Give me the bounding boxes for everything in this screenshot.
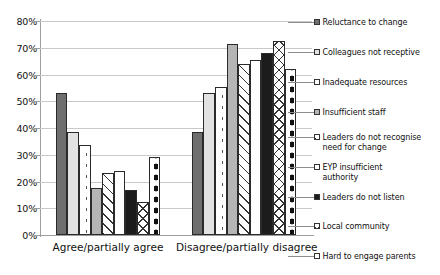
plot-area <box>40 21 312 235</box>
legend-item: EYP insufficient authority <box>314 163 382 182</box>
y-axis-tick-mark <box>35 235 40 236</box>
legend-label: Local community <box>323 222 390 232</box>
legend-item: Inadequate resources <box>314 78 407 88</box>
legend-item: Local community <box>314 222 389 232</box>
legend-swatch <box>314 194 320 200</box>
y-axis-tick-label: 10% <box>16 203 37 214</box>
legend-item: Leaders do not recognise need for change <box>314 133 421 152</box>
legend-item: Insufficient staff <box>314 108 385 118</box>
bar <box>114 171 126 235</box>
bar <box>285 69 297 235</box>
bar <box>273 41 285 235</box>
legend-leader-line <box>288 52 314 53</box>
legend-leader-line <box>288 167 314 168</box>
bar-group <box>56 21 160 235</box>
legend-label: Leaders do not listen <box>323 193 405 203</box>
bar <box>203 93 215 235</box>
bar <box>56 93 68 235</box>
bar <box>261 53 273 235</box>
legend-leader-line <box>288 226 314 227</box>
bar <box>215 87 227 235</box>
y-axis-tick-mark <box>35 128 40 129</box>
bar <box>192 132 204 235</box>
bar <box>227 44 239 235</box>
bar <box>91 188 103 235</box>
x-axis-category-label: Disagree/partially disagree <box>176 241 312 253</box>
bar <box>149 157 161 235</box>
bar <box>137 202 149 235</box>
legend-swatch <box>314 19 320 25</box>
y-axis-tick-labels: 0%10%20%30%40%50%60%70%80% <box>0 0 37 275</box>
legend-leader-line <box>288 256 314 257</box>
bar <box>79 145 91 235</box>
legend-swatch <box>314 49 320 55</box>
legend-item: Reluctance to change <box>314 18 407 28</box>
legend-swatch <box>314 164 320 170</box>
bar <box>67 132 79 235</box>
y-axis-tick-mark <box>35 75 40 76</box>
y-axis-tick-label: 20% <box>16 176 37 187</box>
y-axis-tick-label: 30% <box>16 149 37 160</box>
legend-swatch <box>314 253 320 259</box>
y-axis-tick-mark <box>35 101 40 102</box>
legend-leader-line <box>288 197 314 198</box>
bar <box>125 190 137 235</box>
chart-legend: Reluctance to changeColleagues not recep… <box>314 0 440 275</box>
x-axis-category-label: Agree/partially agree <box>40 241 176 253</box>
y-axis-tick-label: 60% <box>16 69 37 80</box>
y-axis-tick-label: 70% <box>16 42 37 53</box>
bar <box>250 60 262 235</box>
legend-item: Leaders do not listen <box>314 193 404 203</box>
y-axis-tick-mark <box>35 155 40 156</box>
legend-leader-line <box>288 22 314 23</box>
legend-leader-line <box>288 137 314 138</box>
legend-leader-line <box>288 82 314 83</box>
legend-swatch <box>314 223 320 229</box>
y-axis-tick-mark <box>35 21 40 22</box>
legend-label: Insufficient staff <box>323 108 386 118</box>
legend-label: EYP insufficient authority <box>323 163 383 182</box>
legend-item: Hard to engage parents <box>314 252 415 262</box>
x-axis-line <box>40 235 314 236</box>
y-axis-tick-label: 80% <box>16 16 37 27</box>
legend-swatch <box>314 79 320 85</box>
y-axis-tick-mark <box>35 48 40 49</box>
legend-leader-line <box>288 112 314 113</box>
y-axis-tick-mark <box>35 208 40 209</box>
bar-group <box>192 21 296 235</box>
y-axis-tick-label: 50% <box>16 96 37 107</box>
legend-label: Leaders do not recognise need for change <box>323 133 422 152</box>
y-axis-tick-label: 40% <box>16 123 37 134</box>
legend-label: Hard to engage parents <box>323 252 416 262</box>
legend-swatch <box>314 109 320 115</box>
bar <box>102 173 114 235</box>
legend-label: Colleagues not receptive <box>323 48 420 58</box>
legend-label: Reluctance to change <box>323 18 408 28</box>
bar-chart: 0%10%20%30%40%50%60%70%80% Reluctance to… <box>0 0 440 275</box>
y-axis-tick-mark <box>35 182 40 183</box>
legend-swatch <box>314 134 320 140</box>
bar <box>238 64 250 235</box>
legend-item: Colleagues not receptive <box>314 48 420 58</box>
legend-label: Inadequate resources <box>323 78 408 88</box>
